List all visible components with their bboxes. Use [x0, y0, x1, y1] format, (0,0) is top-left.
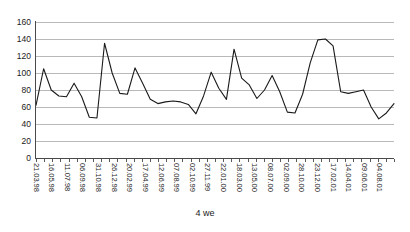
- x-axis-tick: [288, 159, 289, 162]
- x-axis-tick-label: 21.03.98: [32, 163, 41, 192]
- x-axis-tick: [378, 159, 379, 162]
- x-axis-tick-label: 17.02.01: [329, 163, 338, 192]
- x-axis-tick: [77, 159, 78, 162]
- x-axis-tick-label: 02.10.99: [188, 163, 197, 192]
- x-axis-tick: [370, 159, 371, 162]
- x-axis-tick: [109, 159, 110, 162]
- x-axis-tick-label: 18.03.00: [235, 163, 244, 192]
- x-axis-tick: [272, 159, 273, 162]
- y-axis-tick-label: 160: [1, 18, 31, 26]
- x-axis-tick-label: 08.07.00: [266, 163, 275, 192]
- y-axis-tick-label: 20: [1, 137, 31, 145]
- x-axis-tick: [117, 159, 118, 162]
- x-axis-tick: [305, 159, 306, 162]
- x-axis-tick: [60, 159, 61, 162]
- x-axis-tick: [231, 159, 232, 162]
- x-axis-tick: [85, 159, 86, 162]
- x-axis-tick-label: 14.04.01: [344, 163, 353, 192]
- x-axis-tick-label: 06.09.98: [78, 163, 87, 192]
- x-axis-tick: [142, 159, 143, 162]
- y-axis-tick-label: 0: [1, 154, 31, 162]
- x-axis-tick: [256, 159, 257, 162]
- x-axis-tick: [264, 159, 265, 162]
- x-axis-tick: [158, 159, 159, 162]
- x-axis-tick: [313, 159, 314, 162]
- y-axis-tick-label: 60: [1, 103, 31, 111]
- x-axis-tick-label: 22.01.00: [219, 163, 228, 192]
- x-axis-tick-label: 27.11.99: [203, 163, 212, 191]
- y-axis-tick-label: 120: [1, 52, 31, 60]
- x-axis-tick: [101, 159, 102, 162]
- x-axis-tick-label: 23.12.00: [313, 163, 322, 192]
- x-axis-tick-label: 26.12.98: [110, 163, 119, 192]
- x-axis-tick: [150, 159, 151, 162]
- x-axis-tick-label: 02.09.00: [282, 163, 291, 192]
- x-axis-tick: [69, 159, 70, 162]
- x-axis-tick-label: 16.05.98: [47, 163, 56, 192]
- x-axis-tick: [174, 159, 175, 162]
- x-axis-tick: [207, 159, 208, 162]
- x-axis-tick-label: 13.05.00: [250, 163, 259, 192]
- x-axis-tick-label: 12.06.99: [157, 163, 166, 192]
- x-axis-tick: [386, 159, 387, 162]
- x-axis-tick: [345, 159, 346, 162]
- x-axis-title: 4 we: [0, 208, 410, 218]
- x-axis-tick: [191, 159, 192, 162]
- x-axis-tick: [248, 159, 249, 162]
- x-axis-tick: [215, 159, 216, 162]
- x-axis-tick: [296, 159, 297, 162]
- x-axis-tick: [239, 159, 240, 162]
- x-axis-tick: [52, 159, 53, 162]
- y-axis-tick-label: 80: [1, 86, 31, 94]
- x-axis-tick: [394, 159, 395, 162]
- x-axis-tick: [337, 159, 338, 162]
- data-series-line: [36, 22, 394, 158]
- x-axis-tick: [166, 159, 167, 162]
- y-axis-tick-labels: 020406080100120140160: [0, 0, 31, 232]
- x-axis-tick-label: 31.10.98: [94, 163, 103, 192]
- x-axis-tick-label: 11.07.98: [63, 163, 72, 191]
- x-axis-tick: [321, 159, 322, 162]
- x-axis-tick: [44, 159, 45, 162]
- x-axis-tick: [280, 159, 281, 162]
- x-axis-tick-label: 17.04.99: [141, 163, 150, 192]
- plot-area: [36, 22, 394, 158]
- x-axis-tick-labels: 21.03.9816.05.9811.07.9806.09.9831.10.98…: [36, 163, 394, 207]
- x-axis-tick-label: 09.06.01: [360, 163, 369, 192]
- x-axis-tick: [199, 159, 200, 162]
- x-axis-tick: [126, 159, 127, 162]
- line-chart: 020406080100120140160 21.03.9816.05.9811…: [0, 0, 410, 232]
- x-axis-tick: [329, 159, 330, 162]
- x-axis-tick: [93, 159, 94, 162]
- y-axis-tick-label: 140: [1, 35, 31, 43]
- x-axis-tick: [361, 159, 362, 162]
- x-axis-tick-label: 04.08.01: [375, 163, 384, 192]
- x-axis-tick-label: 28.10.00: [297, 163, 306, 192]
- x-axis-tick: [134, 159, 135, 162]
- x-axis-tick-label: 07.08.99: [172, 163, 181, 192]
- x-axis-tick: [223, 159, 224, 162]
- x-axis-tick-label: 20.02.99: [125, 163, 134, 192]
- y-axis-line: [35, 21, 36, 159]
- y-axis-tick-label: 40: [1, 120, 31, 128]
- x-axis-tick: [182, 159, 183, 162]
- x-axis-tick: [36, 159, 37, 162]
- x-axis-tick: [353, 159, 354, 162]
- y-axis-tick-label: 100: [1, 69, 31, 77]
